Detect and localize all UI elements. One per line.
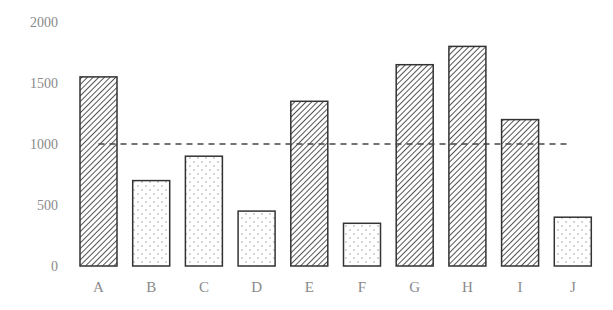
bar-c xyxy=(185,156,222,266)
y-axis-ticks: 0500100015002000 xyxy=(30,15,58,274)
x-axis-labels: ABCDEFGHIJ xyxy=(93,279,576,295)
bar-e xyxy=(291,101,328,266)
y-tick-label: 2000 xyxy=(30,15,58,30)
y-tick-label: 1000 xyxy=(30,137,58,152)
x-tick-label: H xyxy=(462,279,473,295)
x-tick-label: D xyxy=(251,279,262,295)
bar-g xyxy=(396,65,433,266)
y-tick-label: 0 xyxy=(51,259,58,274)
bar-a xyxy=(80,77,117,266)
bar-i xyxy=(502,120,539,266)
y-tick-label: 500 xyxy=(37,198,58,213)
bar-b xyxy=(133,181,170,266)
bar-chart: 0500100015002000 ABCDEFGHIJ xyxy=(0,0,613,310)
bar-d xyxy=(238,211,275,266)
x-tick-label: J xyxy=(570,279,576,295)
x-tick-label: I xyxy=(518,279,523,295)
x-tick-label: C xyxy=(199,279,209,295)
x-tick-label: E xyxy=(305,279,314,295)
x-tick-label: A xyxy=(93,279,104,295)
x-tick-label: F xyxy=(358,279,366,295)
x-tick-label: B xyxy=(146,279,156,295)
bars xyxy=(80,46,591,266)
bar-h xyxy=(449,46,486,266)
bar-f xyxy=(344,223,381,266)
bar-j xyxy=(554,217,591,266)
y-tick-label: 1500 xyxy=(30,76,58,91)
x-tick-label: G xyxy=(409,279,420,295)
